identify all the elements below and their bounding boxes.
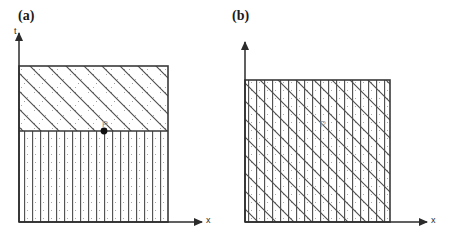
- panel-b-label: (b): [232, 8, 249, 24]
- panel-b-x-axis-label: x: [431, 215, 436, 225]
- panel-a-label: (a): [18, 8, 34, 24]
- panel-a-t-axis-label: t: [14, 26, 17, 36]
- panel-a-x-axis-label: x: [206, 215, 211, 225]
- panel-a-lower-region: [19, 131, 168, 222]
- panel-b-graphics: [245, 42, 427, 222]
- figure-canvas: (a) t x P (b) t x P: [0, 0, 451, 244]
- panel-b-full-region: [245, 80, 390, 222]
- diagram-svg: [0, 0, 451, 244]
- panel-a-graphics: [19, 33, 202, 222]
- panel-b-t-axis-label: t: [240, 26, 243, 36]
- panel-a-upper-region: [19, 66, 168, 131]
- panel-a-point-p-label: P: [102, 119, 108, 129]
- panel-b-point-p-label: P: [320, 119, 326, 129]
